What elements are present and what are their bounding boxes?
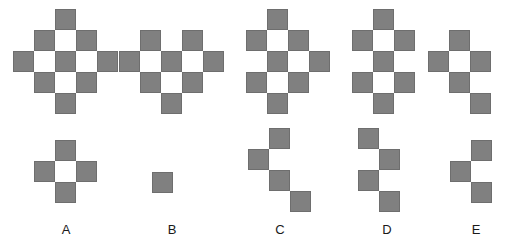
sequence-figure-4	[331, 9, 436, 114]
option-e-shape-cell-r0-c1	[471, 140, 492, 161]
sequence-figure-1-cell-r0-c2	[55, 9, 76, 30]
sequence-figure-2-grid	[119, 9, 224, 114]
option-b-shape[interactable]	[152, 172, 173, 193]
sequence-figure-1	[13, 9, 118, 114]
sequence-figure-4-cell-r1-c1	[352, 30, 373, 51]
sequence-figure-1-cell-r2-c2	[55, 51, 76, 72]
sequence-figure-5-grid	[428, 9, 506, 114]
option-a-shape-cell-r2-c1	[55, 182, 76, 203]
sequence-figure-2-cell-r4-c2	[161, 93, 182, 114]
option-a-shape-grid	[34, 140, 97, 203]
option-d-shape-cell-r3-c1	[379, 191, 400, 212]
option-d-shape-cell-r0-c0	[358, 128, 379, 149]
sequence-figure-5-cell-r1-c1	[449, 30, 470, 51]
sequence-figure-3-cell-r1-c1	[246, 30, 267, 51]
sequence-figure-3-grid	[225, 9, 330, 114]
sequence-figure-1-cell-r3-c3	[76, 72, 97, 93]
option-a-shape-cell-r1-c2	[76, 161, 97, 182]
sequence-figure-3-cell-r0-c2	[267, 9, 288, 30]
sequence-figure-4-cell-r0-c2	[373, 9, 394, 30]
option-a-shape-cell-r0-c1	[55, 140, 76, 161]
sequence-figure-2-cell-r1-c3	[182, 30, 203, 51]
option-b-label: B	[160, 222, 184, 237]
sequence-figure-3-cell-r3-c3	[288, 72, 309, 93]
sequence-figure-1-cell-r1-c1	[34, 30, 55, 51]
sequence-figure-3-cell-r2-c2	[267, 51, 288, 72]
sequence-figure-5-cell-r2-c0	[428, 51, 449, 72]
option-a-shape-cell-r1-c0	[34, 161, 55, 182]
option-c-shape-grid	[248, 128, 311, 212]
sequence-figure-3-cell-r4-c2	[267, 93, 288, 114]
option-c-label: C	[268, 222, 292, 237]
sequence-figure-2-cell-r2-c2	[161, 51, 182, 72]
sequence-figure-5-cell-r4-c2	[470, 93, 491, 114]
sequence-figure-4-cell-r3-c1	[352, 72, 373, 93]
sequence-figure-4-cell-r2-c2	[373, 51, 394, 72]
option-d-label: D	[375, 222, 399, 237]
sequence-figure-2-cell-r2-c4	[203, 51, 224, 72]
sequence-figure-1-cell-r2-c4	[97, 51, 118, 72]
option-c-shape-cell-r2-c1	[269, 170, 290, 191]
option-b-shape-grid	[152, 172, 173, 193]
option-d-shape-cell-r1-c1	[379, 149, 400, 170]
sequence-figure-4-cell-r4-c2	[373, 93, 394, 114]
sequence-figure-3-cell-r1-c3	[288, 30, 309, 51]
sequence-figure-1-grid	[13, 9, 118, 114]
option-e-shape-grid	[450, 140, 492, 203]
sequence-figure-5	[428, 9, 506, 114]
sequence-figure-2-cell-r1-c1	[140, 30, 161, 51]
sequence-figure-2-cell-r3-c1	[140, 72, 161, 93]
sequence-figure-4-cell-r1-c3	[394, 30, 415, 51]
sequence-figure-1-cell-r1-c3	[76, 30, 97, 51]
option-e-label: E	[464, 222, 488, 237]
option-a-shape[interactable]	[34, 140, 97, 203]
sequence-figure-2-cell-r2-c0	[119, 51, 140, 72]
sequence-figure-5-cell-r3-c1	[449, 72, 470, 93]
sequence-figure-3-cell-r2-c4	[309, 51, 330, 72]
sequence-figure-1-cell-r4-c2	[55, 93, 76, 114]
option-e-shape-cell-r2-c1	[471, 182, 492, 203]
sequence-figure-2	[119, 9, 224, 114]
visual-reasoning-puzzle: ABCDE	[0, 0, 506, 251]
sequence-figure-1-cell-r3-c1	[34, 72, 55, 93]
option-c-shape[interactable]	[248, 128, 311, 212]
option-a-label: A	[54, 222, 78, 237]
sequence-figure-4-cell-r3-c3	[394, 72, 415, 93]
option-c-shape-cell-r3-c2	[290, 191, 311, 212]
sequence-figure-2-cell-r3-c3	[182, 72, 203, 93]
sequence-figure-5-cell-r2-c2	[470, 51, 491, 72]
option-c-shape-cell-r1-c0	[248, 149, 269, 170]
option-b-shape-cell-r0-c0	[152, 172, 173, 193]
option-e-shape[interactable]	[450, 140, 492, 203]
sequence-figure-3-cell-r3-c1	[246, 72, 267, 93]
option-d-shape-cell-r2-c0	[358, 170, 379, 191]
option-c-shape-cell-r0-c1	[269, 128, 290, 149]
sequence-figure-1-cell-r2-c0	[13, 51, 34, 72]
option-e-shape-cell-r1-c0	[450, 161, 471, 182]
option-d-shape-grid	[358, 128, 400, 212]
option-d-shape[interactable]	[358, 128, 400, 212]
sequence-figure-3	[225, 9, 330, 114]
sequence-figure-4-grid	[331, 9, 436, 114]
